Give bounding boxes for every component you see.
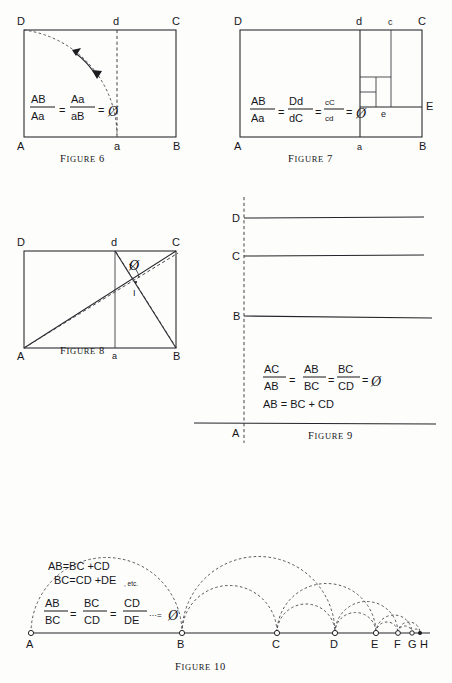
figure-7-label-e: e [381, 109, 386, 119]
figure-10-eq2: = [110, 608, 116, 620]
figure-10-arc-CE [277, 584, 376, 634]
figure-10-point-B [179, 630, 184, 635]
figure-6-label-d: d [113, 15, 119, 27]
figure-9-eq3: = [362, 374, 368, 386]
figure-6-eq1: = [59, 104, 65, 116]
figure-6-frac2-num: Aa [71, 93, 85, 105]
figure-10-relation-2: BC=CD +DE [54, 574, 116, 586]
figure-10-point-E [373, 630, 378, 635]
figure-10-label-A: A [26, 638, 34, 650]
figure-6-phi: Ø [107, 104, 119, 119]
figure-10-point-H [418, 631, 422, 635]
figure-6-label-B: B [173, 140, 180, 152]
figure-10-arc-DF [335, 602, 398, 634]
figure-7-caption-word: IGURE [295, 154, 324, 164]
figure-8-label-A: A [17, 350, 25, 362]
figure-8-point-I-dot [135, 281, 137, 283]
figure-10-label-E: E [371, 638, 378, 650]
figure-6-caption: FIGURE6 [60, 148, 105, 166]
figure-8-caption: FIGURE8 [60, 340, 105, 358]
figure-9-rule-B [244, 316, 432, 318]
figure-7-frac3-den: cd [325, 114, 333, 123]
figure-8-label-a: a [112, 351, 117, 361]
figure-10-caption: FIGURE10 [175, 656, 226, 674]
figure-10: A B C D E F G H AB=BC +CD BC=CD +DE , et… [0, 460, 452, 683]
figure-7-label-D: D [234, 15, 242, 27]
figure-10-arc-BC [182, 586, 277, 634]
figure-6-arrow-head [92, 70, 102, 79]
figure-10-relation-1: AB=BC +CD [48, 560, 110, 572]
figure-7-label-a: a [357, 142, 362, 152]
figure-plate: D d C A a B AB Aa = Aa aB = Ø FIGURE6 [0, 0, 452, 683]
figure-9-label-D: D [232, 212, 240, 224]
figure-9-eq2: = [328, 374, 334, 386]
figure-7-label-E: E [426, 100, 433, 112]
figure-7-label-A: A [234, 140, 242, 152]
figure-8-diagonal-dB [115, 251, 176, 348]
figure-9-rule-D [244, 217, 424, 218]
figure-7-label-d: d [356, 15, 362, 27]
figure-9: D C B A AC AB = AB BC = BC CD = Ø AB = B… [180, 185, 452, 445]
figure-10-eq1: = [70, 608, 76, 620]
figure-10-point-F [396, 631, 401, 636]
figure-9-label-C: C [232, 250, 240, 262]
figure-9-f3-num: BC [338, 363, 353, 375]
figure-7-frac2-den: dC [289, 112, 303, 124]
figure-9-rule-A [194, 423, 436, 424]
figure-10-label-B: B [177, 638, 184, 650]
figure-10-point-D [332, 630, 337, 635]
figure-7-frac1-num: AB [251, 95, 266, 107]
figure-8-diagonal-AC [24, 251, 176, 348]
figure-10-caption-word: IGURE [182, 662, 211, 672]
figure-10-arc-DE [335, 613, 376, 634]
figure-10-label-G: G [408, 638, 417, 650]
figure-10-f1-den: BC [45, 614, 60, 626]
figure-6-rectangle [24, 30, 176, 137]
figure-10-f2-den: CD [84, 614, 100, 626]
figure-8-caption-word: IGURE [67, 346, 96, 356]
figure-10-point-G [410, 631, 414, 635]
figure-7-caption: FIGURE7 [288, 148, 333, 166]
figure-6-label-C: C [172, 15, 180, 27]
figure-8-label-I: I [133, 288, 136, 298]
figure-10-f2-num: BC [84, 597, 99, 609]
figure-9-rule-C [244, 255, 424, 256]
figure-6-label-a: a [114, 140, 121, 152]
figure-10-point-A [28, 630, 33, 635]
figure-6: D d C A a B AB Aa = Aa aB = Ø FIGURE6 [0, 0, 226, 170]
figure-10-f1-num: AB [45, 597, 60, 609]
figure-9-phi: Ø [370, 374, 382, 389]
figure-9-label-B: B [233, 310, 240, 322]
figure-8-label-d: d [111, 236, 117, 248]
figure-7-label-B: B [419, 140, 426, 152]
figure-9-f3-den: CD [338, 380, 354, 392]
figure-8-label-C: C [172, 236, 180, 248]
figure-8-label-D: D [17, 236, 25, 248]
figure-8-caption-number: 8 [99, 345, 105, 356]
figure-6-eq2: = [98, 104, 104, 116]
figure-7-eq2: = [315, 106, 321, 118]
figure-6-formula: AB Aa = Aa aB = Ø [30, 93, 119, 122]
figure-7-label-c: c [388, 17, 393, 27]
figure-10-f3-den: DE [124, 614, 139, 626]
figure-10-label-D: D [330, 638, 338, 650]
figure-7-formula: AB Aa = Dd dC = cC cd = Ø [250, 95, 367, 124]
figure-6-caption-number: 6 [99, 153, 105, 164]
figure-7-phi: Ø [355, 106, 367, 121]
figure-9-eq1: = [289, 374, 295, 386]
figure-6-label-D: D [17, 15, 25, 27]
figure-9-formula-2: AB = BC + CD [263, 398, 334, 410]
figure-10-formula: AB BC = BC CD = CD DE ⋯= Ø [44, 597, 179, 626]
figure-9-f1-den: AB [264, 380, 279, 392]
figure-10-label-H: H [420, 638, 428, 650]
figure-10-eq3: ⋯= [149, 611, 162, 620]
figure-10-arc-EF [376, 622, 398, 633]
figure-9-caption-number: 9 [347, 430, 353, 441]
figure-7-eq3: = [346, 106, 352, 118]
figure-7-frac3-num: cC [325, 98, 335, 107]
figure-9-label-A: A [232, 427, 240, 439]
figure-10-label-F: F [394, 638, 401, 650]
figure-9-f2-den: BC [304, 380, 319, 392]
figure-7-frac1-den: Aa [251, 112, 265, 124]
figure-10-label-C: C [272, 638, 280, 650]
